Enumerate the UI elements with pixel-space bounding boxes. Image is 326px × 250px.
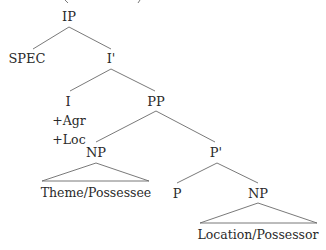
tree-edges	[0, 0, 326, 250]
leaf-theme-possessee: Theme/Possessee	[41, 187, 152, 200]
triangle-np-theme	[42, 163, 149, 181]
edge-cropped-right	[138, 0, 140, 3]
edge-pp-np	[96, 111, 156, 142]
node-p-bar: P'	[210, 146, 222, 159]
edge-ip-spec	[33, 27, 69, 49]
edge-cropped-left	[65, 0, 68, 3]
node-np-location: NP	[248, 187, 268, 200]
edge-ibar-i	[70, 69, 111, 91]
edge-ip-ibar	[69, 27, 111, 49]
node-pp: PP	[147, 95, 165, 108]
node-spec: SPEC	[8, 52, 45, 65]
edge-pbar-p	[177, 163, 217, 183]
triangle-np-location	[200, 203, 317, 223]
node-np-theme: NP	[86, 146, 106, 159]
feature-agr: +Agr	[52, 115, 85, 128]
edge-pp-pbar	[156, 111, 215, 142]
node-ip: IP	[62, 10, 76, 23]
node-i: I	[65, 95, 70, 108]
feature-loc: +Loc	[52, 134, 85, 147]
node-i-bar: I'	[107, 52, 116, 65]
node-p: P	[173, 187, 182, 200]
edge-pbar-np	[217, 163, 258, 183]
edge-ibar-pp	[111, 69, 155, 91]
leaf-location-possessor: Location/Possessor	[197, 229, 318, 242]
